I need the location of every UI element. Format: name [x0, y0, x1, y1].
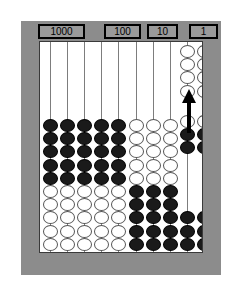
bead-dark	[146, 238, 161, 251]
bead-light	[146, 172, 161, 185]
bead-dark	[77, 132, 92, 145]
bead-dark	[197, 211, 203, 224]
abacus-figure: 1000100101	[0, 0, 242, 296]
bead-light	[43, 198, 58, 211]
bead-dark	[43, 159, 58, 172]
bead-dark	[94, 159, 109, 172]
bead-light	[94, 198, 109, 211]
bead-light	[129, 172, 144, 185]
bead-light	[146, 119, 161, 132]
bead-light	[111, 225, 126, 238]
bead-dark	[197, 238, 203, 251]
bead-dark	[163, 238, 178, 251]
bead-dark	[60, 159, 75, 172]
up-arrow-icon	[180, 89, 198, 133]
bead-light	[43, 211, 58, 224]
bead-dark	[163, 211, 178, 224]
bead-light	[43, 238, 58, 251]
bead-light	[77, 225, 92, 238]
bead-dark	[111, 119, 126, 132]
bead-light	[180, 45, 195, 58]
bead-dark	[111, 145, 126, 158]
bead-light	[77, 211, 92, 224]
bead-light	[129, 159, 144, 172]
bead-dark	[94, 145, 109, 158]
bead-light	[77, 198, 92, 211]
bead-dark	[129, 225, 144, 238]
bead-dark	[163, 225, 178, 238]
bead-dark	[111, 132, 126, 145]
bead-light	[77, 185, 92, 198]
bead-light	[146, 159, 161, 172]
bead-dark	[111, 159, 126, 172]
bead-dark	[43, 119, 58, 132]
bead-dark	[94, 132, 109, 145]
bead-light	[197, 58, 203, 71]
bead-dark	[129, 185, 144, 198]
bead-light	[180, 71, 195, 84]
bead-light	[197, 71, 203, 84]
bead-light	[146, 145, 161, 158]
bead-dark	[146, 211, 161, 224]
bead-light	[129, 119, 144, 132]
bead-light	[94, 238, 109, 251]
bead-light	[77, 238, 92, 251]
bead-dark	[111, 172, 126, 185]
bead-light	[60, 198, 75, 211]
bead-dark	[60, 172, 75, 185]
bead-dark	[180, 225, 195, 238]
bead-dark	[129, 198, 144, 211]
place-label-10: 10	[147, 24, 178, 39]
bead-dark	[163, 185, 178, 198]
bead-dark	[180, 238, 195, 251]
bead-light	[60, 185, 75, 198]
bead-dark	[43, 145, 58, 158]
place-value-header: 1000100101	[21, 21, 221, 42]
bead-light	[94, 225, 109, 238]
bead-light	[94, 211, 109, 224]
bead-light	[163, 159, 178, 172]
bead-dark	[180, 141, 195, 154]
bead-dark	[146, 225, 161, 238]
place-label-1000: 1000	[38, 24, 85, 39]
bead-dark	[60, 145, 75, 158]
bead-light	[129, 145, 144, 158]
bead-light	[111, 211, 126, 224]
place-label-100: 100	[104, 24, 141, 39]
bead-dark	[77, 145, 92, 158]
bead-dark	[197, 141, 203, 154]
bead-dark	[77, 119, 92, 132]
bead-dark	[129, 238, 144, 251]
bead-light	[94, 185, 109, 198]
bead-light	[129, 132, 144, 145]
bead-light	[163, 172, 178, 185]
bead-dark	[43, 172, 58, 185]
bead-light	[163, 145, 178, 158]
bead-dark	[163, 198, 178, 211]
bead-dark	[60, 119, 75, 132]
bead-dark	[180, 211, 195, 224]
bead-light	[111, 198, 126, 211]
bead-light	[43, 185, 58, 198]
bead-light	[146, 132, 161, 145]
bead-dark	[77, 172, 92, 185]
bead-light	[111, 185, 126, 198]
bead-dark	[94, 119, 109, 132]
bead-dark	[146, 198, 161, 211]
bead-light	[43, 225, 58, 238]
bead-light	[60, 211, 75, 224]
bead-board	[39, 41, 203, 253]
bead-dark	[60, 132, 75, 145]
bead-light	[163, 132, 178, 145]
bead-dark	[77, 159, 92, 172]
bead-light	[197, 45, 203, 58]
bead-light	[60, 238, 75, 251]
bead-light	[180, 58, 195, 71]
bead-light	[111, 238, 126, 251]
bead-dark	[197, 225, 203, 238]
place-label-1: 1	[189, 24, 218, 39]
bead-dark	[146, 185, 161, 198]
bead-light	[163, 119, 178, 132]
bead-dark	[129, 211, 144, 224]
bead-dark	[43, 132, 58, 145]
